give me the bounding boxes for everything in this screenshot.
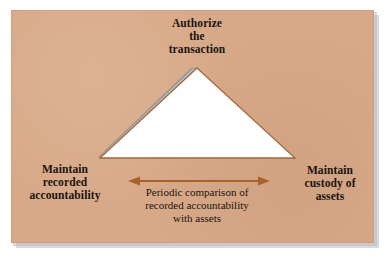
label-authorize-line-1: Authorize	[137, 17, 257, 30]
label-authorize-line-3: transaction	[137, 43, 257, 56]
label-center-line-3: with assets	[111, 212, 283, 225]
label-authorize-line-2: the	[137, 30, 257, 43]
label-maintain-recorded-accountability: Maintain recorded accountability	[6, 163, 124, 202]
label-right-line-1: Maintain	[274, 164, 386, 177]
label-center-line-1: Periodic comparison of	[111, 186, 283, 199]
central-triangle	[100, 68, 295, 158]
label-periodic-comparison: Periodic comparison of recorded accounta…	[111, 186, 283, 225]
periodic-comparison-arrow	[128, 176, 270, 185]
label-right-line-2: custody of	[274, 177, 386, 190]
label-left-line-1: Maintain	[6, 163, 124, 176]
label-center-line-2: recorded accountability	[111, 199, 283, 212]
label-authorize-the-transaction: Authorize the transaction	[137, 17, 257, 56]
diagram-canvas: Authorize the transaction Maintain recor…	[0, 0, 392, 264]
label-left-line-3: accountability	[6, 189, 124, 202]
label-maintain-custody-of-assets: Maintain custody of assets	[274, 164, 386, 203]
label-left-line-2: recorded	[6, 176, 124, 189]
label-right-line-3: assets	[274, 190, 386, 203]
